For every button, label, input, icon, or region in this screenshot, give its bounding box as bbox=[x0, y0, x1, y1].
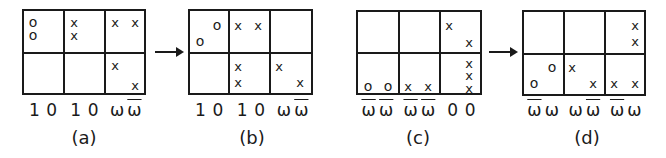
circle-mark: o bbox=[362, 80, 374, 93]
column-label: 1 bbox=[237, 100, 248, 120]
cross-mark: x bbox=[443, 19, 455, 32]
cross-mark: x bbox=[232, 19, 244, 32]
cross-mark: x bbox=[629, 19, 641, 32]
circle-mark: o bbox=[546, 61, 558, 74]
cross-mark: x bbox=[129, 16, 141, 29]
panel-c: xxxxxooxx bbox=[356, 10, 482, 95]
circle-mark: o bbox=[27, 29, 39, 42]
cross-mark: x bbox=[629, 77, 641, 90]
cross-mark: x bbox=[463, 82, 475, 95]
cross-mark: x bbox=[109, 16, 121, 29]
column-label: 1 bbox=[29, 100, 40, 120]
column-label: ω bbox=[403, 100, 417, 120]
panel-c-labels: ωωωω00 bbox=[356, 100, 482, 122]
circle-mark: o bbox=[528, 77, 540, 90]
circle-mark: o bbox=[194, 35, 206, 48]
panel-d: xxooxxxx bbox=[522, 10, 646, 96]
arrow-a-to-b bbox=[155, 51, 182, 53]
column-label: ω bbox=[421, 100, 435, 120]
cross-mark: x bbox=[402, 80, 414, 93]
cross-mark: x bbox=[129, 79, 141, 92]
column-label: ω bbox=[527, 100, 541, 120]
panel-a: ooxxxxxx bbox=[22, 9, 146, 95]
row-divider bbox=[358, 52, 480, 54]
panel-b-labels: 1010ωω bbox=[188, 100, 313, 122]
panel-b-caption: (b) bbox=[239, 127, 264, 148]
column-label: ω bbox=[127, 100, 141, 120]
cross-mark: x bbox=[629, 35, 641, 48]
column-label: ω bbox=[361, 100, 375, 120]
panel-d-labels: ωωωωωω bbox=[522, 100, 646, 122]
cross-mark: x bbox=[422, 80, 434, 93]
panel-c-caption: (c) bbox=[406, 127, 430, 148]
column-label: ω bbox=[569, 100, 583, 120]
column-label: ω bbox=[545, 100, 559, 120]
circle-mark: o bbox=[382, 80, 394, 93]
panel-d-caption: (d) bbox=[574, 127, 599, 148]
cross-mark: x bbox=[68, 29, 80, 42]
cross-mark: x bbox=[608, 77, 620, 90]
column-label: ω bbox=[610, 100, 624, 120]
row-divider bbox=[524, 53, 644, 55]
cross-mark: x bbox=[252, 19, 264, 32]
row-divider bbox=[190, 52, 311, 54]
arrow-c-to-d bbox=[489, 51, 516, 53]
column-label: ω bbox=[586, 100, 600, 120]
column-label: 0 bbox=[447, 100, 458, 120]
column-label: 1 bbox=[195, 100, 206, 120]
panel-a-caption: (a) bbox=[71, 127, 96, 148]
row-divider bbox=[24, 52, 144, 54]
column-label: 0 bbox=[46, 100, 57, 120]
column-label: 0 bbox=[88, 100, 99, 120]
column-label: 1 bbox=[70, 100, 81, 120]
column-label: ω bbox=[379, 100, 393, 120]
column-label: ω bbox=[627, 100, 641, 120]
cross-mark: x bbox=[587, 77, 599, 90]
column-label: 0 bbox=[254, 100, 265, 120]
cross-mark: x bbox=[273, 60, 285, 73]
cross-mark: x bbox=[294, 76, 306, 89]
circle-mark: o bbox=[211, 19, 223, 32]
cross-mark: x bbox=[232, 76, 244, 89]
cross-mark: x bbox=[463, 36, 475, 49]
column-label: 0 bbox=[465, 100, 476, 120]
cross-mark: x bbox=[109, 59, 121, 72]
panel-b: ooxxxxxx bbox=[188, 9, 313, 95]
column-label: ω bbox=[294, 100, 308, 120]
panel-a-labels: 1010ωω bbox=[22, 100, 146, 122]
column-label: 0 bbox=[213, 100, 224, 120]
cross-mark: x bbox=[232, 60, 244, 73]
column-label: ω bbox=[110, 100, 124, 120]
cross-mark: x bbox=[566, 61, 578, 74]
column-label: ω bbox=[277, 100, 291, 120]
